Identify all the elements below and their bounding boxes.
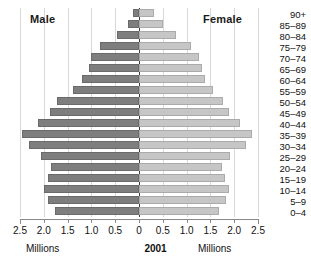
age-group-label: 65–69 <box>280 64 306 75</box>
bar-male <box>55 207 139 215</box>
age-group-label: 60–64 <box>280 75 306 86</box>
pyramid-row <box>20 74 258 85</box>
age-group-label: 90+ <box>290 9 306 20</box>
pyramid-row <box>20 118 258 129</box>
x-axis-tick-label: 2.0 <box>37 225 51 236</box>
x-axis-tick-label: 1.5 <box>61 225 75 236</box>
bar-female <box>139 119 240 127</box>
x-axis-tick-label: 0 <box>136 225 142 236</box>
bar-male <box>44 185 139 193</box>
bar-male <box>29 141 139 149</box>
age-group-label: 40–44 <box>280 119 306 130</box>
age-group-label: 30–34 <box>280 141 306 152</box>
bar-female <box>139 86 213 94</box>
age-group-label: 5–9 <box>290 196 306 207</box>
x-axis-tick <box>258 219 259 223</box>
age-group-label: 85–89 <box>280 20 306 31</box>
bar-female <box>139 141 246 149</box>
bar-female <box>139 9 154 17</box>
pyramid-row <box>20 52 258 63</box>
pyramid-row <box>20 173 258 184</box>
x-axis-tick <box>139 219 140 223</box>
bar-male <box>50 108 139 116</box>
units-label-left: Millions <box>26 243 59 254</box>
bar-female <box>139 163 222 171</box>
gridline <box>258 8 259 217</box>
age-group-label: 45–49 <box>280 108 306 119</box>
bar-male <box>91 53 139 61</box>
x-axis-tick-label: 2.5 <box>13 225 27 236</box>
age-group-label: 75–79 <box>280 42 306 53</box>
population-pyramid-chart: Male Female 90+85–8980–8475–7970–7465–69… <box>0 0 311 266</box>
age-group-label: 25–29 <box>280 152 306 163</box>
age-group-label: 35–39 <box>280 130 306 141</box>
age-group-label: 10–14 <box>280 185 306 196</box>
x-axis-tick <box>115 219 116 223</box>
pyramid-row <box>20 195 258 206</box>
bar-female <box>139 196 226 204</box>
bar-male <box>22 130 139 138</box>
bar-rows <box>20 8 258 217</box>
pyramid-row <box>20 140 258 151</box>
bar-female <box>139 130 252 138</box>
pyramid-row <box>20 30 258 41</box>
pyramid-row <box>20 151 258 162</box>
age-group-label: 0–4 <box>290 207 306 218</box>
bar-female <box>139 53 199 61</box>
pyramid-row <box>20 107 258 118</box>
bar-male <box>89 64 139 72</box>
x-axis-tick <box>68 219 69 223</box>
bar-female <box>139 75 205 83</box>
bar-female <box>139 31 176 39</box>
x-axis-tick <box>20 219 21 223</box>
x-axis-tick-label: 1.0 <box>180 225 194 236</box>
year-label: 2001 <box>144 243 166 254</box>
bar-female <box>139 207 219 215</box>
bar-male <box>51 163 139 171</box>
age-group-label: 50–54 <box>280 97 306 108</box>
bar-female <box>139 108 229 116</box>
age-group-label: 55–59 <box>280 86 306 97</box>
x-axis-tick <box>44 219 45 223</box>
series-label-male: Male <box>30 13 55 25</box>
x-axis-tick <box>91 219 92 223</box>
bar-female <box>139 20 163 28</box>
bar-male <box>82 75 139 83</box>
bar-female <box>139 42 191 50</box>
bar-male <box>48 174 139 182</box>
bar-male <box>128 20 139 28</box>
x-axis-tick-label: 0.5 <box>108 225 122 236</box>
bar-male <box>100 42 139 50</box>
pyramid-row <box>20 184 258 195</box>
pyramid-row <box>20 206 258 217</box>
bar-male <box>38 119 139 127</box>
pyramid-row <box>20 162 258 173</box>
x-axis-tick-label: 0.5 <box>156 225 170 236</box>
age-group-label: 15–19 <box>280 174 306 185</box>
bar-male <box>57 97 139 105</box>
x-axis-tick <box>234 219 235 223</box>
pyramid-row <box>20 41 258 52</box>
bar-female <box>139 152 230 160</box>
bar-female <box>139 174 225 182</box>
x-axis-tick-label: 2.5 <box>251 225 265 236</box>
pyramid-row <box>20 85 258 96</box>
bar-female <box>139 64 202 72</box>
bar-male <box>117 31 139 39</box>
x-axis-tick-label: 2.0 <box>227 225 241 236</box>
bar-female <box>139 97 223 105</box>
age-group-label: 70–74 <box>280 53 306 64</box>
pyramid-row <box>20 96 258 107</box>
x-axis-tick <box>187 219 188 223</box>
bar-male <box>41 152 139 160</box>
x-axis-tick-label: 1.0 <box>84 225 98 236</box>
x-axis-tick-label: 1.5 <box>203 225 217 236</box>
age-group-label: 20–24 <box>280 163 306 174</box>
age-group-label: 80–84 <box>280 31 306 42</box>
pyramid-row <box>20 63 258 74</box>
plot-area <box>20 8 258 217</box>
series-label-female: Female <box>203 13 242 25</box>
x-axis-tick <box>210 219 211 223</box>
bar-male <box>48 196 139 204</box>
bar-female <box>139 185 229 193</box>
